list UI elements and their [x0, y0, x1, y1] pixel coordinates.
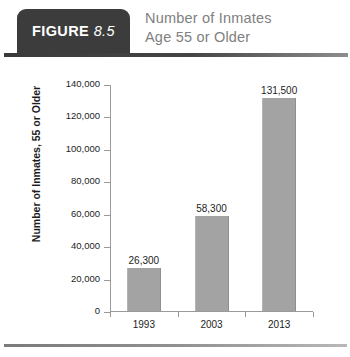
y-axis-title: Number of Inmates, 55 or Older	[30, 64, 42, 264]
plot-area: 020,00040,00060,00080,000100,000120,0001…	[110, 85, 313, 312]
y-axis-line	[110, 85, 111, 312]
y-tick: 80,000	[104, 182, 110, 183]
y-tick-label: 60,000	[71, 208, 100, 219]
bar-chart: Number of Inmates, 55 or Older 020,00040…	[0, 58, 350, 330]
bar	[195, 216, 229, 311]
y-tick-label: 120,000	[66, 110, 100, 121]
figure-number-label: 8.5	[94, 23, 115, 39]
y-tick: 140,000	[104, 85, 110, 86]
x-tick	[110, 312, 111, 317]
y-tick: 100,000	[104, 150, 110, 151]
bar	[262, 98, 296, 311]
figure-badge-text: FIGURE 8.5	[32, 23, 115, 39]
bar-value-label: 26,300	[104, 255, 184, 266]
y-tick: 40,000	[104, 247, 110, 248]
bar	[127, 268, 161, 311]
y-tick-label: 140,000	[66, 78, 100, 89]
footer-divider	[4, 344, 347, 347]
figure-title: Number of Inmates Age 55 or Older	[145, 9, 345, 47]
y-tick: 20,000	[104, 280, 110, 281]
figure-word-label: FIGURE	[32, 23, 89, 39]
x-tick	[245, 312, 246, 317]
figure-number-badge: FIGURE 8.5	[17, 9, 130, 53]
x-axis-line	[110, 311, 313, 312]
y-tick-label: 100,000	[66, 143, 100, 154]
category-label: 2013	[239, 319, 319, 330]
figure-title-line-1: Number of Inmates	[145, 9, 345, 28]
y-tick: 120,000	[104, 117, 110, 118]
x-tick	[178, 312, 179, 317]
header-divider	[4, 53, 348, 57]
figure-title-line-2: Age 55 or Older	[145, 28, 345, 47]
x-tick	[313, 312, 314, 317]
y-tick-label: 0	[95, 305, 100, 316]
y-tick-label: 40,000	[71, 240, 100, 251]
y-tick-label: 20,000	[71, 273, 100, 284]
bar-value-label: 131,500	[239, 85, 319, 96]
bar-value-label: 58,300	[172, 203, 252, 214]
y-tick-label: 80,000	[71, 175, 100, 186]
y-tick: 60,000	[104, 215, 110, 216]
figure-header: FIGURE 8.5 Number of Inmates Age 55 or O…	[0, 0, 350, 58]
